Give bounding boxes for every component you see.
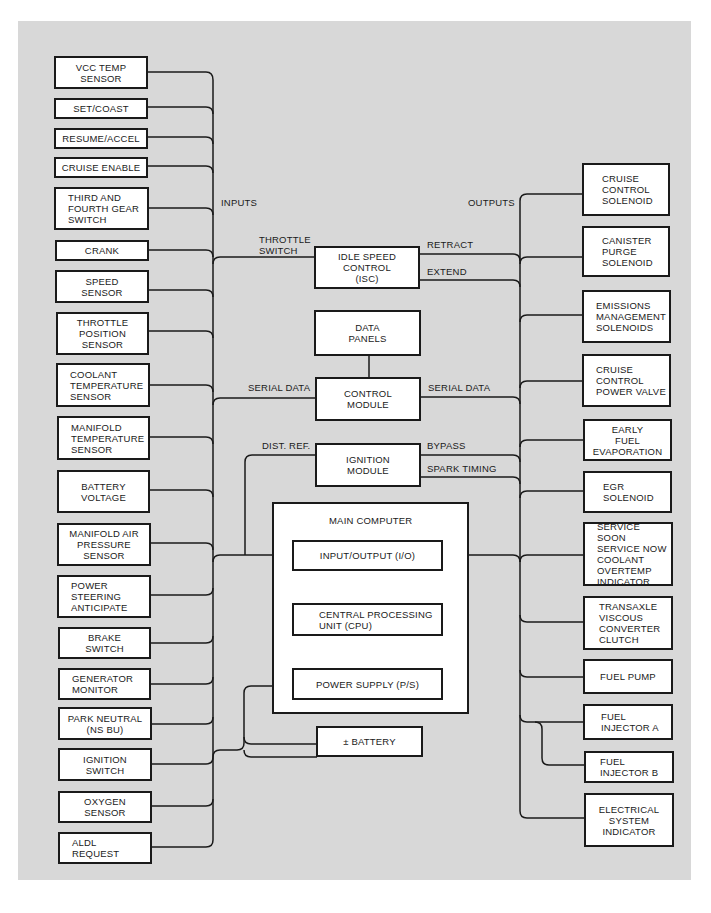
data-panels-box: DATA PANELS	[314, 310, 421, 356]
serial-data-out-label: SERIAL DATA	[428, 382, 490, 393]
input-third-fourth-gear-switch: THIRD AND FOURTH GEAR SWITCH	[54, 187, 149, 230]
input-resume-accel: RESUME/ACCEL	[54, 128, 148, 149]
idle-speed-control-box: IDLE SPEED CONTROL (ISC)	[314, 246, 420, 289]
spark-timing-label: SPARK TIMING	[427, 463, 497, 474]
input-crank: CRANK	[55, 240, 149, 261]
input-battery-voltage: BATTERY VOLTAGE	[57, 470, 150, 513]
extend-label: EXTEND	[427, 266, 467, 277]
main-computer-title: MAIN COMPUTER	[329, 515, 412, 526]
input-set-coast: SET/COAST	[54, 98, 148, 119]
inputs-bus-label: INPUTS	[221, 197, 257, 208]
input-manifold-temperature-sensor: MANIFOLD TEMPERATURE SENSOR	[57, 416, 150, 460]
input-ignition-switch: IGNITION SWITCH	[58, 748, 152, 781]
dist-ref-label: DIST. REF.	[262, 440, 310, 451]
input-throttle-position-sensor: THROTTLE POSITION SENSOR	[56, 312, 149, 355]
output-fuel-injector-a: FUEL INJECTOR A	[583, 704, 673, 740]
control-module-box: CONTROL MODULE	[315, 377, 421, 421]
ignition-module-box: IGNITION MODULE	[315, 443, 421, 487]
output-transaxle-viscous-converter-clutch: TRANSAXLE VISCOUS CONVERTER CLUTCH	[583, 596, 673, 650]
output-early-fuel-evaporation: EARLY FUEL EVAPORATION	[583, 419, 672, 461]
outputs-bus-label: OUTPUTS	[468, 197, 515, 208]
power-supply-box: POWER SUPPLY (P/S)	[292, 668, 443, 700]
output-emissions-management-solenoids: EMISSIONS MANAGEMENT SOLENOIDS	[582, 290, 671, 343]
input-oxygen-sensor: OXYGEN SENSOR	[58, 791, 152, 823]
retract-label: RETRACT	[427, 239, 473, 250]
input-park-neutral: PARK NEUTRAL (NS BU)	[58, 707, 152, 740]
cpu-box: CENTRAL PROCESSING UNIT (CPU)	[292, 603, 443, 636]
output-service-soon-now-indicator: SERVICE SOON SERVICE NOW COOLANT OVERTEM…	[583, 522, 673, 586]
battery-box: ± BATTERY	[316, 726, 423, 757]
input-output-box: INPUT/OUTPUT (I/O)	[292, 540, 443, 571]
serial-data-in-label: SERIAL DATA	[248, 382, 310, 393]
output-electrical-system-indicator: ELECTRICAL SYSTEM INDICATOR	[584, 793, 674, 847]
output-cruise-control-power-valve: CRUISE CONTROL POWER VALVE	[582, 354, 671, 407]
bypass-label: BYPASS	[427, 440, 466, 451]
input-brake-switch: BRAKE SWITCH	[58, 627, 151, 659]
output-fuel-injector-b: FUEL INJECTOR B	[584, 751, 674, 783]
input-generator-monitor: GENERATOR MONITOR	[58, 668, 151, 700]
input-vcc-temp-sensor: VCC TEMP SENSOR	[54, 56, 148, 89]
input-power-steering-anticipate: POWER STEERING ANTICIPATE	[57, 575, 151, 618]
output-cruise-control-solenoid: CRUISE CONTROL SOLENOID	[582, 163, 670, 216]
output-egr-solenoid: EGR SOLENOID	[583, 471, 672, 513]
input-aldl-request: ALDL REQUEST	[58, 832, 152, 864]
input-speed-sensor: SPEED SENSOR	[55, 270, 149, 303]
throttle-switch-label: THROTTLE SWITCH	[259, 234, 311, 256]
input-coolant-temperature-sensor: COOLANT TEMPERATURE SENSOR	[56, 363, 150, 407]
input-cruise-enable: CRUISE ENABLE	[54, 157, 148, 178]
output-canister-purge-solenoid: CANISTER PURGE SOLENOID	[582, 226, 670, 277]
input-manifold-air-pressure-sensor: MANIFOLD AIR PRESSURE SENSOR	[57, 523, 151, 566]
output-fuel-pump: FUEL PUMP	[583, 659, 673, 694]
